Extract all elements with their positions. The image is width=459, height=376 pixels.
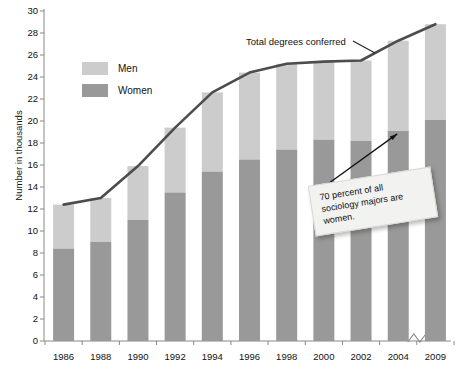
bar-segment-men bbox=[90, 198, 111, 242]
legend-label-women: Women bbox=[118, 85, 152, 96]
bar-segment-women bbox=[313, 140, 334, 341]
bar-segment-men bbox=[388, 41, 409, 131]
bar-segment-men bbox=[127, 166, 148, 220]
legend-label-men: Men bbox=[118, 63, 137, 74]
bar-segment-men bbox=[53, 205, 74, 249]
bar-segment-women bbox=[351, 141, 372, 341]
bar-segment-men bbox=[351, 61, 372, 141]
bar-segment-women bbox=[425, 120, 446, 341]
bar-segment-men bbox=[313, 62, 334, 140]
total-line-leader bbox=[353, 41, 375, 53]
bar-segment-men bbox=[165, 128, 186, 193]
bar-segment-men bbox=[276, 64, 297, 150]
legend-swatch-women bbox=[82, 84, 108, 97]
bar-segment-women bbox=[388, 131, 409, 341]
bar-segment-women bbox=[165, 193, 186, 342]
bar-segment-men bbox=[239, 73, 260, 160]
legend-swatch-men bbox=[82, 62, 108, 75]
bar-segment-men bbox=[202, 92, 223, 171]
bar-segment-women bbox=[276, 150, 297, 341]
bar-segment-men bbox=[425, 24, 446, 120]
bar-segment-women bbox=[202, 172, 223, 341]
bar-segment-women bbox=[53, 249, 74, 341]
bar-segment-women bbox=[127, 220, 148, 341]
bar-segment-women bbox=[90, 242, 111, 341]
total-line-label: Total degrees conferred bbox=[246, 36, 346, 47]
bar-segment-women bbox=[239, 160, 260, 342]
chart-container: Number in thousands 02468101214161820222… bbox=[0, 0, 459, 376]
